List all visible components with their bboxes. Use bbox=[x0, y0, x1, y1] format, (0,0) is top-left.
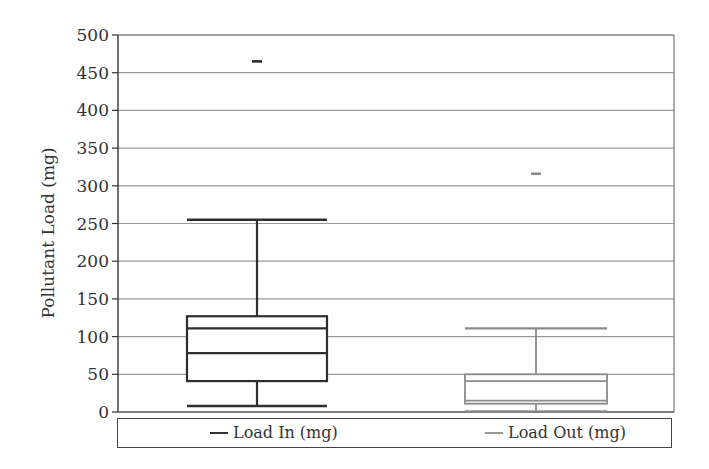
y-axis-title: Pollutant Load (mg) bbox=[38, 147, 58, 318]
legend-swatch-load-out bbox=[485, 432, 503, 434]
legend: Load In (mg) Load Out (mg) bbox=[117, 418, 672, 448]
y-tick-label: 50 bbox=[87, 364, 109, 384]
box-load-out bbox=[465, 174, 607, 412]
y-tick-label: 500 bbox=[77, 25, 109, 45]
legend-label-load-in: Load In (mg) bbox=[233, 423, 338, 442]
y-tick-label: 300 bbox=[77, 176, 109, 196]
box-plot-chart: 050100150200250300350400450500 Pollutant… bbox=[0, 0, 709, 469]
legend-item-load-in: Load In (mg) bbox=[210, 423, 338, 442]
legend-item-load-out: Load Out (mg) bbox=[485, 423, 626, 442]
legend-label-load-out: Load Out (mg) bbox=[508, 423, 626, 442]
y-tick-label: 400 bbox=[77, 100, 109, 120]
box-load-in bbox=[187, 61, 327, 406]
y-tick-label: 250 bbox=[77, 214, 109, 234]
y-tick-label: 450 bbox=[77, 63, 109, 83]
y-tick-label: 200 bbox=[77, 251, 109, 271]
box-series bbox=[187, 61, 607, 411]
y-tick-label: 0 bbox=[98, 402, 109, 422]
y-tick-label: 100 bbox=[77, 327, 109, 347]
legend-swatch-load-in bbox=[210, 432, 228, 434]
y-tick-label: 150 bbox=[77, 289, 109, 309]
y-tick-label: 350 bbox=[77, 138, 109, 158]
